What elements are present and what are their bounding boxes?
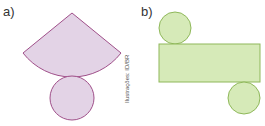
cone-net [23,13,121,120]
cone-base-circle [50,76,94,120]
cone-lateral-sector [23,13,121,77]
illustration-credit: Ilustrações: ID/BR [124,55,130,103]
cylinder-top-circle [159,12,191,44]
nets-diagram [0,0,265,126]
cylinder-net [159,12,260,114]
cylinder-bottom-circle [228,82,260,114]
cylinder-lateral-rectangle [159,44,260,82]
